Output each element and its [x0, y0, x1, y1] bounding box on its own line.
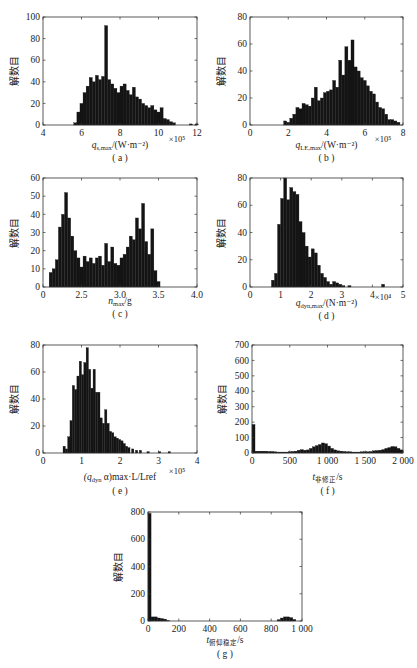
histogram-bars — [63, 348, 170, 453]
histogram-bar — [323, 277, 326, 287]
histogram-bar — [132, 449, 134, 453]
histogram-bar — [86, 86, 89, 125]
histogram-bar — [77, 258, 80, 287]
histogram-bar — [77, 376, 79, 453]
histogram-bar — [148, 254, 151, 287]
plot-frame — [252, 345, 403, 453]
histogram-bar — [375, 102, 378, 125]
histogram-bar — [287, 617, 290, 621]
histogram-bar — [98, 80, 101, 125]
y-tick-label: 60 — [31, 173, 41, 183]
histogram-bar — [309, 448, 312, 453]
histogram-bar — [388, 120, 391, 125]
histogram-bar — [89, 77, 92, 125]
x-tick-label: 0 — [248, 128, 253, 138]
histogram-bar — [121, 441, 123, 453]
plot-frame — [250, 178, 403, 287]
x-axis-label: qLE,max/(W·m⁻²) — [296, 140, 358, 151]
x-axis-label: qs,max/(W·m⁻²) — [92, 140, 148, 151]
histogram-panel-g: 02004006008001 0000200400600800解数目t俯仰稳定/… — [112, 507, 313, 660]
plot-frame — [43, 345, 197, 453]
x-axis-label: t非修正/s — [313, 472, 343, 484]
x-tick-label: 1 000 — [317, 456, 339, 466]
x-tick-label: 1 — [79, 456, 84, 466]
y-tick-label: 100 — [26, 12, 41, 22]
axis-multiplier: ×10⁵ — [169, 466, 185, 476]
x-tick-label: 8 — [118, 128, 123, 138]
x-tick-label: 2 — [309, 290, 314, 300]
histogram-bar — [320, 273, 323, 287]
histogram-bar — [281, 198, 284, 287]
histogram-bar — [72, 386, 74, 454]
histogram-bar — [157, 618, 160, 621]
histogram-bar — [305, 246, 308, 287]
histogram-bar — [363, 80, 366, 125]
y-axis-label: 解数目 — [8, 384, 20, 414]
histogram-bar — [302, 233, 305, 288]
x-tick-label: 0 — [41, 456, 46, 466]
x-tick-label: 12 — [192, 128, 202, 138]
x-tick-label: 2 — [286, 128, 291, 138]
histogram-bar — [129, 95, 132, 125]
histogram-panel-e: 01234020406080解数目(qdyn α)max·L/Lref×10⁵(… — [8, 340, 200, 497]
panel-caption: ( b ) — [319, 153, 335, 164]
histogram-bar — [154, 617, 157, 621]
histogram-bar — [111, 84, 114, 125]
histogram-bar — [351, 40, 354, 125]
histogram-bar — [297, 450, 300, 453]
histogram-bar — [98, 392, 100, 453]
histogram-panel-d: 012345020406080解数目qdyn,max/(N·m⁻²)×10⁴( … — [215, 173, 406, 322]
histogram-bar — [93, 369, 95, 453]
histogram-bar — [328, 446, 331, 453]
histogram-bar — [166, 120, 169, 125]
y-axis-label: 解数目 — [8, 218, 20, 248]
panel-caption: ( c ) — [112, 309, 127, 320]
y-tick-label: 80 — [238, 12, 248, 22]
y-tick-label: 20 — [31, 99, 41, 109]
histogram-bar — [125, 446, 127, 453]
histogram-bars — [148, 513, 296, 621]
figure-svg: 4681012020406080100解数目qs,max/(W·m⁻²)×10⁵… — [0, 0, 417, 668]
histogram-bar — [382, 109, 385, 125]
axis-multiplier: ×10⁵ — [169, 134, 185, 144]
histogram-bar — [98, 256, 101, 287]
y-axis-label: 解数目 — [215, 218, 227, 248]
x-tick-label: 200 — [172, 624, 187, 634]
histogram-bar — [360, 78, 363, 125]
histogram-bar — [314, 87, 317, 125]
histogram-bar — [108, 262, 111, 287]
histogram-bar — [345, 47, 348, 125]
histogram-bar — [339, 60, 342, 125]
histogram-bar — [312, 447, 315, 453]
histogram-bar — [68, 437, 70, 453]
x-tick-label: 0 — [41, 290, 46, 300]
histogram-bar — [88, 369, 90, 453]
histogram-bar — [118, 440, 120, 454]
x-tick-label: 0 — [248, 290, 253, 300]
panel-caption: ( a ) — [112, 153, 127, 164]
histogram-bar — [117, 265, 120, 287]
histogram-panel-f: 05001 0001 5002 000010020030040050060070… — [216, 340, 414, 497]
y-tick-label: 40 — [31, 77, 41, 87]
histogram-bar — [290, 118, 293, 125]
histogram-bar — [80, 103, 83, 125]
histogram-bar — [123, 84, 126, 125]
histogram-bar — [354, 67, 357, 125]
histogram-bar — [290, 188, 293, 287]
histogram-bar — [397, 122, 400, 125]
histogram-bar — [284, 121, 287, 125]
y-tick-label: 0 — [244, 448, 249, 458]
histogram-bar — [105, 410, 107, 453]
histogram-bar — [334, 450, 337, 453]
histogram-bar — [111, 247, 114, 287]
histogram-bar — [369, 91, 372, 125]
histogram-bar — [132, 87, 135, 125]
histogram-bar — [314, 253, 317, 287]
histogram-bar — [126, 247, 129, 287]
histogram-bar — [145, 106, 148, 125]
axis-multiplier: ×10⁴ — [375, 292, 391, 302]
histogram-bar — [331, 448, 334, 453]
y-tick-label: 0 — [242, 282, 247, 292]
x-tick-label: 6 — [79, 128, 84, 138]
histogram-bar — [339, 284, 342, 287]
